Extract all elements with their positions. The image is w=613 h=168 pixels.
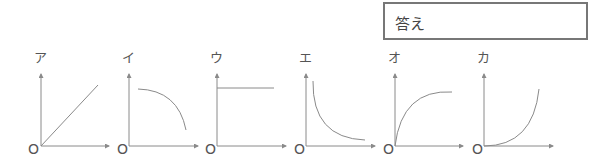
- curve-linear: [41, 85, 98, 146]
- graph-e: [306, 74, 375, 146]
- graphs-canvas: [0, 0, 613, 168]
- graph-a: [41, 74, 109, 146]
- graph-o: [395, 74, 463, 146]
- graph-i: [129, 74, 198, 146]
- curve-concave-down: [138, 89, 186, 130]
- graph-u: [217, 74, 286, 146]
- graph-ka: [484, 74, 553, 146]
- curve-saturating: [395, 92, 452, 146]
- curve-inverse: [313, 81, 365, 140]
- curve-exponential: [484, 89, 539, 146]
